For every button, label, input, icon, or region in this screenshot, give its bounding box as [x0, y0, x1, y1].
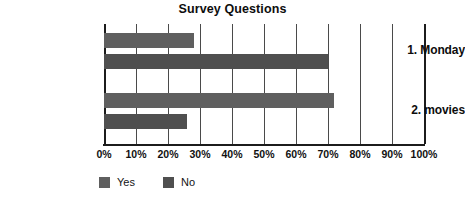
gridline-40pct — [232, 24, 233, 144]
survey-questions-bar-chart: Survey Questions 1. Monday2. movies 0%10… — [0, 0, 465, 201]
legend-label-no: No — [181, 176, 195, 188]
legend-label-yes: Yes — [117, 176, 135, 188]
x-tick-100pct: 100% — [404, 148, 444, 160]
bar-no-2 — [104, 114, 187, 129]
gridline-100pct — [424, 24, 426, 144]
legend-swatch-yes — [99, 177, 110, 188]
gridline-80pct — [360, 24, 361, 144]
gridline-70pct — [328, 24, 329, 144]
gridline-30pct — [200, 24, 201, 144]
bar-yes-2 — [104, 93, 334, 108]
category-label-2: 2. movies — [369, 103, 465, 117]
gridline-90pct — [392, 24, 393, 144]
x-axis-tick-labels: 0%10%20%30%40%50%60%70%80%90%100% — [104, 148, 424, 164]
category-label-1: 1. Monday — [369, 43, 465, 57]
legend-entry-yes[interactable]: Yes — [99, 175, 135, 189]
legend-swatch-no — [163, 177, 174, 188]
chart-title: Survey Questions — [0, 2, 465, 16]
gridline-60pct — [296, 24, 297, 144]
bar-yes-1 — [104, 33, 194, 48]
x-axis-line — [103, 144, 425, 146]
plot-area — [104, 24, 424, 144]
bar-no-1 — [104, 54, 328, 69]
legend-entry-no[interactable]: No — [163, 175, 195, 189]
gridline-50pct — [264, 24, 265, 144]
